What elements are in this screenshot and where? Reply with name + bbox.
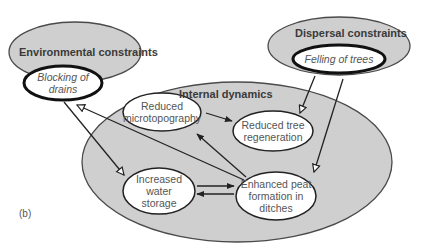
panel-label: (b): [19, 208, 31, 219]
blocking-of-drains-label: Blocking of drains: [24, 71, 102, 95]
regen-label-line2: regeneration: [233, 131, 313, 143]
enhanced-peat-formation-label: Enhanced peat formation in ditches: [236, 178, 316, 214]
water-label-line3: storage: [123, 197, 195, 209]
felling-of-trees-label: Felling of trees: [293, 53, 385, 65]
water-label-line2: water: [123, 185, 195, 197]
internal-dynamics-title: Internal dynamics: [179, 88, 273, 100]
reduced-tree-regeneration-label: Reduced tree regeneration: [233, 119, 313, 143]
dispersal-constraints-title: Dispersal constraints: [295, 27, 407, 39]
blocking-label-line2: drains: [24, 83, 102, 95]
increased-water-storage-label: Increased water storage: [123, 173, 195, 209]
reduced-microtopography-label: Reduced microtopography: [122, 100, 202, 124]
peat-label-line2: formation in: [236, 190, 316, 202]
regen-label-line1: Reduced tree: [233, 119, 313, 131]
peat-label-line3: ditches: [236, 202, 316, 214]
peat-label-line1: Enhanced peat: [236, 178, 316, 190]
water-label-line1: Increased: [123, 173, 195, 185]
blocking-label-line1: Blocking of: [24, 71, 102, 83]
environmental-constraints-title: Environmental constraints: [19, 46, 158, 58]
microtopo-label-line1: Reduced: [122, 100, 202, 112]
microtopo-label-line2: microtopography: [122, 112, 202, 124]
